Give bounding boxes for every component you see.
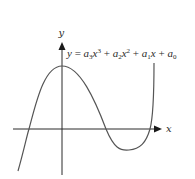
polynomial-curve (18, 63, 154, 171)
cubic-polynomial-figure: x y y = a3x3 + a2x2 + a1x + a0 (0, 0, 195, 179)
y-axis-arrow-icon (59, 42, 66, 50)
equation-label: y = a3x3 + a2x2 + a1x + a0 (66, 47, 177, 61)
x-axis-arrow-icon (154, 126, 162, 133)
x-axis-label: x (166, 123, 172, 134)
y-axis-label: y (58, 27, 65, 38)
